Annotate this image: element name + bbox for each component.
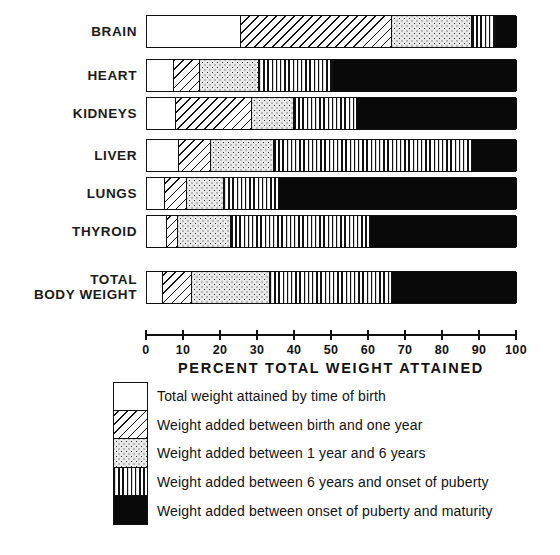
axis-tick: [330, 330, 332, 341]
legend-swatch: [113, 411, 148, 440]
bar-track: [146, 59, 516, 92]
axis-tick: [145, 330, 147, 341]
bar-row-label: KIDNEYS: [73, 106, 137, 121]
bar-row-label: THYROID: [72, 224, 137, 239]
axis-tick: [182, 330, 184, 341]
bar-row: TOTALBODY WEIGHT: [146, 271, 516, 304]
bar-segment: [495, 16, 517, 47]
bar-track: [146, 139, 516, 172]
bar-row-label-line: TOTAL: [34, 272, 137, 288]
bar-segment: [147, 140, 178, 171]
bar-row-label-line: KIDNEYS: [73, 106, 137, 121]
axis-tick-label: 30: [250, 343, 265, 357]
bar-segment: [332, 60, 517, 91]
bar-row: KIDNEYS: [146, 97, 516, 130]
legend-label: Weight added between birth and one year: [157, 417, 423, 433]
axis-tick-label: 10: [176, 343, 191, 357]
bar-segment: [273, 140, 471, 171]
bar-segment: [147, 60, 173, 91]
bar-row-label: LUNGS: [87, 186, 137, 201]
axis-tick-label: 20: [213, 343, 228, 357]
axis-tick: [404, 330, 406, 341]
legend-swatch: [113, 468, 148, 497]
bar-segment: [210, 140, 273, 171]
bar-segment: [391, 272, 517, 303]
bar-segment: [147, 272, 162, 303]
legend-label: Weight added between 1 year and 6 years: [157, 445, 426, 461]
bar-segment: [199, 60, 258, 91]
bar-track: [146, 97, 516, 130]
bar-row: HEART: [146, 59, 516, 92]
bar-segment: [147, 98, 175, 129]
bar-segment: [164, 178, 186, 209]
bar-segment: [240, 16, 392, 47]
axis-tick-label: 40: [287, 343, 302, 357]
legend-label: Weight added between 6 years and onset o…: [157, 474, 489, 490]
bar-segment: [147, 16, 240, 47]
legend-swatch: [113, 439, 148, 468]
bar-segment: [356, 98, 517, 129]
axis-tick-label: 0: [142, 343, 149, 357]
bar-segment: [173, 60, 199, 91]
bar-segment: [251, 98, 294, 129]
bar-row-label-line: BODY WEIGHT: [34, 288, 137, 304]
bar-row: THYROID: [146, 215, 516, 248]
bar-row-label: TOTALBODY WEIGHT: [34, 272, 137, 303]
bar-segment: [471, 140, 517, 171]
bar-track: [146, 177, 516, 210]
bar-segment: [162, 272, 192, 303]
bar-segment: [191, 272, 269, 303]
bar-segment: [471, 16, 495, 47]
bar-segment: [223, 178, 279, 209]
legend-swatch: [113, 496, 148, 525]
bar-row-label-line: THYROID: [72, 224, 137, 239]
axis-tick: [367, 330, 369, 341]
axis-tick: [441, 330, 443, 341]
bar-row-label-line: BRAIN: [91, 24, 137, 39]
axis-tick-label: 50: [324, 343, 339, 357]
bar-track: [146, 215, 516, 248]
axis-tick-label: 70: [398, 343, 413, 357]
legend-label: Weight added between onset of puberty an…: [157, 502, 493, 518]
bar-segment: [177, 216, 231, 247]
bar-row-label: LIVER: [94, 148, 137, 163]
bar-segment: [278, 178, 517, 209]
growth-chart: BRAINHEARTKIDNEYSLIVERLUNGSTHYROIDTOTALB…: [0, 0, 560, 555]
bar-segment: [269, 272, 391, 303]
axis-tick: [293, 330, 295, 341]
bar-row: LIVER: [146, 139, 516, 172]
bar-row-label-line: LIVER: [94, 148, 137, 163]
bar-track: [146, 15, 516, 48]
axis-tick-label: 100: [505, 343, 527, 357]
bar-track: [146, 271, 516, 304]
bar-segment: [166, 216, 177, 247]
axis-tick: [219, 330, 221, 341]
bar-segment: [175, 98, 251, 129]
bar-segment: [147, 178, 164, 209]
legend-swatch: [113, 382, 148, 411]
axis-tick-label: 60: [361, 343, 376, 357]
bar-segment: [230, 216, 369, 247]
bar-segment: [258, 60, 332, 91]
bar-segment: [178, 140, 209, 171]
bar-segment: [369, 216, 517, 247]
legend-label: Total weight attained by time of birth: [157, 388, 386, 404]
bar-row-label-line: HEART: [88, 68, 138, 83]
axis-tick-label: 80: [435, 343, 450, 357]
axis-tick: [256, 330, 258, 341]
axis-tick-label: 90: [472, 343, 487, 357]
axis-title: PERCENT TOTAL WEIGHT ATTAINED: [146, 360, 516, 376]
bar-segment: [186, 178, 223, 209]
bar-segment: [293, 98, 356, 129]
axis-tick: [515, 330, 517, 341]
bar-row: LUNGS: [146, 177, 516, 210]
axis-tick: [478, 330, 480, 341]
bar-segment: [391, 16, 471, 47]
bar-row-label: BRAIN: [91, 24, 137, 39]
bar-row-label-line: LUNGS: [87, 186, 137, 201]
bar-row-label: HEART: [88, 68, 138, 83]
bar-segment: [147, 216, 166, 247]
bar-row: BRAIN: [146, 15, 516, 48]
